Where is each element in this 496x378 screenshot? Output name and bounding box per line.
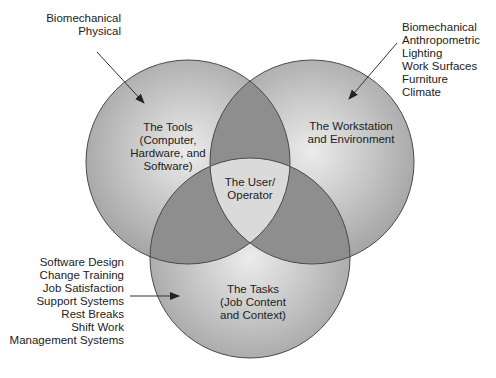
label-line: The Tasks <box>203 283 303 296</box>
annotation-line: Biomechanical <box>46 12 121 25</box>
label-line: (Computer, <box>118 134 218 147</box>
label-line: Hardware, and <box>118 147 218 160</box>
annotation-line: Climate <box>402 86 480 99</box>
label-tasks: The Tasks (Job Content and Context) <box>203 283 303 322</box>
label-line: The Workstation <box>296 120 406 133</box>
annotation-tools: Biomechanical Physical <box>46 12 121 38</box>
annotation-tasks: Software Design Change Training Job Sati… <box>10 256 124 347</box>
venn-diagram: Biomechanical Physical Biomechanical Ant… <box>0 0 496 378</box>
label-workstation: The Workstation and Environment <box>296 120 406 146</box>
annotation-line: Shift Work <box>10 321 124 334</box>
label-line: (Job Content <box>203 296 303 309</box>
annotation-line: Job Satisfaction <box>10 282 124 295</box>
label-tools: The Tools (Computer, Hardware, and Softw… <box>118 121 218 173</box>
annotation-workstation: Biomechanical Anthropometric Lighting Wo… <box>402 21 480 99</box>
annotation-line: Furniture <box>402 73 480 86</box>
label-line: The Tools <box>118 121 218 134</box>
annotation-line: Rest Breaks <box>10 308 124 321</box>
label-line: Operator <box>210 189 290 202</box>
label-line: and Environment <box>296 133 406 146</box>
annotation-line: Change Training <box>10 269 124 282</box>
annotation-line: Support Systems <box>10 295 124 308</box>
annotation-line: Physical <box>46 25 121 38</box>
label-line: and Context) <box>203 309 303 322</box>
label-line: The User/ <box>210 176 290 189</box>
annotation-line: Lighting <box>402 47 480 60</box>
annotation-line: Anthropometric <box>402 34 480 47</box>
annotation-line: Management Systems <box>10 334 124 347</box>
annotation-line: Software Design <box>10 256 124 269</box>
annotation-line: Biomechanical <box>402 21 480 34</box>
label-center: The User/ Operator <box>210 176 290 202</box>
annotation-line: Work Surfaces <box>402 60 480 73</box>
label-line: Software) <box>118 160 218 173</box>
